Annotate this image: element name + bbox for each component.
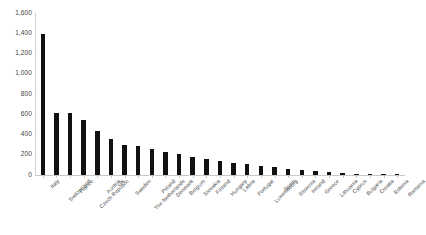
bar[interactable]: [245, 164, 249, 175]
bar-slot: [240, 13, 254, 175]
x-axis-tick-mark: [261, 175, 262, 178]
bar-slot: [104, 13, 118, 175]
x-axis-tick-mark: [138, 175, 139, 178]
bar[interactable]: [41, 34, 45, 175]
x-axis-tick-mark: [125, 175, 126, 178]
y-axis-tick-label: 1,200: [15, 50, 32, 57]
x-axis-tick-mark: [111, 175, 112, 178]
bar-slot: [145, 13, 159, 175]
y-axis-tick-label: 1,400: [15, 30, 32, 37]
y-axis-tick-label: 200: [21, 151, 32, 158]
y-axis-tick-label: 400: [21, 131, 32, 138]
bar-slot: [50, 13, 64, 175]
x-axis-tick-mark: [275, 175, 276, 178]
plot-area: [36, 13, 404, 175]
x-axis-tick-mark: [84, 175, 85, 178]
x-axis-tick-mark: [247, 175, 248, 178]
x-axis-tick-mark: [397, 175, 398, 178]
y-axis-tick-label: 1,000: [15, 70, 32, 77]
x-axis-tick-mark: [356, 175, 357, 178]
bar-slot: [254, 13, 268, 175]
x-axis-tick-mark: [343, 175, 344, 178]
x-axis-tick-mark: [193, 175, 194, 178]
bar-slot: [322, 13, 336, 175]
bar[interactable]: [218, 161, 222, 175]
x-axis-category-label: Sweden: [133, 178, 151, 196]
y-axis-tick-label: 800: [21, 91, 32, 98]
x-axis-tick-mark: [165, 175, 166, 178]
y-axis-tick-label: 0: [28, 172, 32, 179]
x-axis-tick-mark: [206, 175, 207, 178]
x-axis-tick-mark: [384, 175, 385, 178]
bar-slot: [172, 13, 186, 175]
x-axis-tick-mark: [370, 175, 371, 178]
x-axis-category-label: France: [78, 178, 94, 194]
bar[interactable]: [231, 163, 235, 175]
bar-slot: [309, 13, 323, 175]
bar-slot: [63, 13, 77, 175]
x-axis-category-label: Romania: [407, 178, 426, 198]
bar[interactable]: [272, 167, 276, 175]
y-axis-tick-label: 600: [21, 111, 32, 118]
bar[interactable]: [81, 120, 85, 175]
bar[interactable]: [95, 131, 99, 175]
bar[interactable]: [177, 154, 181, 175]
bar-slot: [118, 13, 132, 175]
bar-slot: [213, 13, 227, 175]
x-axis-tick-mark: [56, 175, 57, 178]
bar[interactable]: [259, 166, 263, 175]
x-axis-tick-mark: [179, 175, 180, 178]
y-axis-tick-labels: 1,6001,4001,2001,0008006004002000: [0, 13, 32, 175]
x-axis-category-label: Italy: [49, 178, 60, 189]
bar-slot: [377, 13, 391, 175]
bar[interactable]: [54, 113, 58, 175]
bar[interactable]: [204, 159, 208, 175]
x-axis-tick-mark: [288, 175, 289, 178]
bar-slot: [200, 13, 214, 175]
x-axis-tick-mark: [70, 175, 71, 178]
bar[interactable]: [122, 145, 126, 175]
bar[interactable]: [190, 157, 194, 175]
bar-slot: [91, 13, 105, 175]
x-axis-category-labels: ItalySwitzerlandFranceCzech RepublicAust…: [36, 178, 404, 235]
bar-slot: [295, 13, 309, 175]
x-axis-tick-mark: [43, 175, 44, 178]
bar-slot: [281, 13, 295, 175]
bar-slot: [390, 13, 404, 175]
x-axis-tick-mark: [220, 175, 221, 178]
bar-slot: [363, 13, 377, 175]
bar[interactable]: [109, 139, 113, 175]
bar[interactable]: [150, 149, 154, 175]
y-axis-tick-label: 1,600: [15, 10, 32, 17]
x-axis-tick-mark: [234, 175, 235, 178]
bar-slot: [268, 13, 282, 175]
bar-slot: [349, 13, 363, 175]
x-axis-tick-mark: [302, 175, 303, 178]
x-axis-tick-mark: [152, 175, 153, 178]
bar-slot: [36, 13, 50, 175]
bar-slot: [227, 13, 241, 175]
bar[interactable]: [163, 152, 167, 175]
bar-slot: [77, 13, 91, 175]
x-axis-tick-mark: [97, 175, 98, 178]
x-axis-category-label: Portugal: [256, 178, 275, 197]
x-axis-tick-mark: [315, 175, 316, 178]
x-axis-tick-mark: [329, 175, 330, 178]
bar-slot: [336, 13, 350, 175]
bar-slot: [186, 13, 200, 175]
bar-slot: [159, 13, 173, 175]
bar[interactable]: [136, 146, 140, 175]
bar-slot: [131, 13, 145, 175]
bar[interactable]: [68, 113, 72, 175]
